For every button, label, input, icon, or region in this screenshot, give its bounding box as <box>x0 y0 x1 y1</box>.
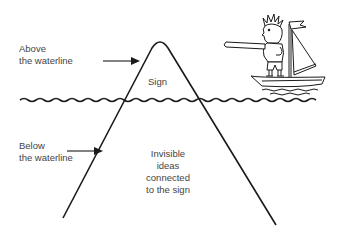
label-hidden-line3: connected <box>137 172 199 184</box>
arrow-above-icon <box>103 57 140 65</box>
label-below-line1: Below <box>19 140 73 152</box>
label-above-waterline: Above the waterline <box>19 43 73 67</box>
label-sign-text: Sign <box>148 76 167 87</box>
iceberg-diagram <box>0 0 344 237</box>
label-hidden-line1: Invisible <box>137 148 199 160</box>
label-below-line2: the waterline <box>19 152 73 164</box>
label-hidden-line2: ideas <box>137 160 199 172</box>
label-below-waterline: Below the waterline <box>19 140 73 164</box>
sailboat-icon <box>251 21 325 95</box>
label-above-line2: the waterline <box>19 55 73 67</box>
waterline-wave <box>20 99 316 102</box>
man-pointing-icon <box>224 14 284 76</box>
label-sign: Sign <box>148 76 167 88</box>
label-hidden-line4: to the sign <box>137 184 199 196</box>
label-above-line1: Above <box>19 43 73 55</box>
label-hidden-ideas: Invisible ideas connected to the sign <box>137 148 199 196</box>
iceberg-outline <box>63 42 276 225</box>
